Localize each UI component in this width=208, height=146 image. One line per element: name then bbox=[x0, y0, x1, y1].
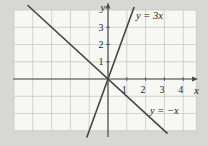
x-tick-label: 3 bbox=[159, 84, 164, 95]
graph-canvas: 1234123xyy = 3xy = −x bbox=[0, 0, 208, 146]
equation-label-1: y = −x bbox=[149, 105, 179, 116]
x-tick-label: 4 bbox=[178, 84, 183, 95]
y-tick-label: 2 bbox=[99, 39, 104, 50]
equation-label-0: y = 3x bbox=[135, 10, 163, 21]
graph-figure: 1234123xyy = 3xy = −x bbox=[0, 0, 208, 146]
y-tick-label: 1 bbox=[99, 56, 104, 67]
x-tick-label: 2 bbox=[141, 84, 146, 95]
y-axis-label: y bbox=[100, 1, 106, 13]
y-tick-label: 3 bbox=[99, 22, 104, 33]
x-tick-label: 1 bbox=[122, 84, 127, 95]
x-axis-label: x bbox=[193, 84, 199, 96]
